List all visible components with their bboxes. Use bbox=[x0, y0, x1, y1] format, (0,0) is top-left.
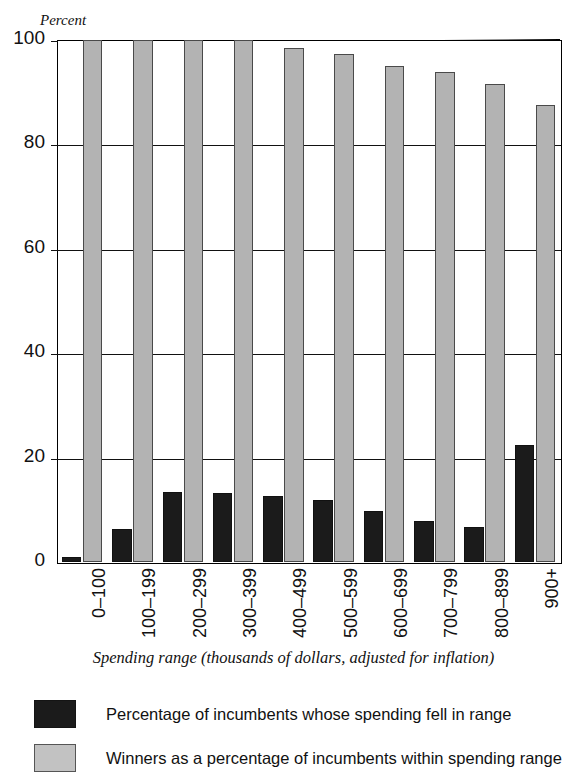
bar-incumbent-spending-600-699 bbox=[364, 511, 384, 562]
bar-winners-200-299 bbox=[184, 40, 204, 562]
x-tick-label-0-100: 0–100 bbox=[89, 568, 110, 618]
x-tick-label-300-399: 300–399 bbox=[240, 568, 261, 638]
y-tick-label-0: 0 bbox=[0, 549, 45, 571]
y-tick-label-80: 80 bbox=[0, 131, 45, 153]
bar-incumbent-spending-200-299 bbox=[163, 492, 183, 562]
x-tick-label-900+: 900+ bbox=[542, 568, 563, 609]
bar-incumbent-spending-800-899 bbox=[464, 527, 484, 562]
bar-incumbent-spending-300-399 bbox=[213, 493, 233, 562]
bar-incumbent-spending-100-199 bbox=[112, 529, 132, 562]
y-tick-label-40: 40 bbox=[0, 340, 45, 362]
bar-winners-600-699 bbox=[385, 66, 405, 562]
x-tick-label-400-499: 400–499 bbox=[290, 568, 311, 638]
legend-swatch-gray bbox=[34, 744, 76, 772]
legend-label-dark: Percentage of incumbents whose spending … bbox=[106, 705, 511, 724]
bar-winners-500-599 bbox=[334, 54, 354, 562]
bar-incumbent-spending-900+ bbox=[515, 445, 535, 562]
x-tick-label-100-199: 100–199 bbox=[139, 568, 160, 638]
bar-winners-400-499 bbox=[284, 48, 304, 562]
x-tick-label-700-799: 700–799 bbox=[441, 568, 462, 638]
legend-item-incumbent-spending: Percentage of incumbents whose spending … bbox=[34, 692, 574, 736]
bar-winners-800-899 bbox=[485, 84, 505, 562]
y-tick-label-100: 100 bbox=[0, 27, 45, 49]
chart-legend: Percentage of incumbents whose spending … bbox=[34, 692, 574, 776]
bar-incumbent-spending-500-599 bbox=[313, 500, 333, 562]
legend-label-gray: Winners as a percentage of incumbents wi… bbox=[106, 749, 562, 768]
legend-item-winners: Winners as a percentage of incumbents wi… bbox=[34, 736, 574, 776]
x-tick-label-600-699: 600–699 bbox=[391, 568, 412, 638]
x-tick-label-200-299: 200–299 bbox=[190, 568, 211, 638]
bar-incumbent-spending-400-499 bbox=[263, 496, 283, 562]
y-tick-label-60: 60 bbox=[0, 236, 45, 258]
bar-winners-700-799 bbox=[435, 72, 455, 562]
y-tick-label-20: 20 bbox=[0, 445, 45, 467]
bar-winners-100-199 bbox=[133, 40, 153, 562]
bar-incumbent-spending-0-100 bbox=[62, 557, 82, 562]
bar-winners-900+ bbox=[536, 105, 556, 562]
bar-incumbent-spending-700-799 bbox=[414, 521, 434, 562]
x-axis-tick-labels: 0–100100–199200–299300–399400–499500–599… bbox=[57, 566, 560, 646]
legend-swatch-dark bbox=[34, 700, 76, 728]
y-axis-caption: Percent bbox=[40, 12, 86, 29]
bar-winners-0-100 bbox=[83, 40, 103, 562]
bar-series-container bbox=[57, 40, 560, 562]
x-axis-title: Spending range (thousands of dollars, ad… bbox=[0, 648, 587, 668]
bar-winners-300-399 bbox=[234, 40, 254, 562]
x-tick-label-800-899: 800–899 bbox=[492, 568, 513, 638]
scan-artifact-text bbox=[42, 0, 372, 9]
x-tick-label-500-599: 500–599 bbox=[341, 568, 362, 638]
